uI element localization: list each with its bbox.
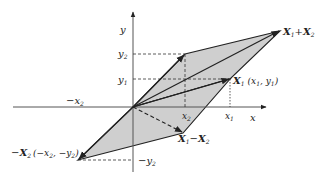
- vector-diagram: y x y2 y1 −x2 x2 x1 −y2 X1+X2 X1(x1, y1)…: [0, 0, 324, 190]
- neg-x2-tick-label: −x2: [66, 95, 84, 107]
- neg-y2-tick-label: −y2: [138, 155, 156, 167]
- y1-tick-label: y1: [117, 74, 127, 86]
- sum-label: X1+X2: [282, 26, 315, 38]
- y-axis-label: y: [119, 24, 126, 35]
- y2-tick-label: y2: [117, 48, 128, 60]
- diff-label: X1−X2: [177, 133, 210, 145]
- x1-tick-label: x1: [225, 111, 234, 122]
- x-axis-label: x: [250, 112, 256, 123]
- x1-label: X1(x1, y1): [232, 75, 279, 87]
- neg-x2-label: −X2(−x2, −y2): [11, 147, 79, 159]
